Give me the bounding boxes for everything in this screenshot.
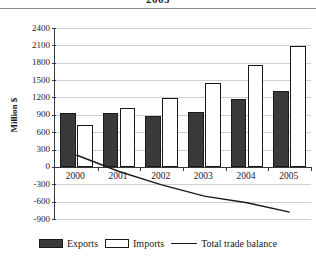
- y-tick-label: 900: [4, 110, 50, 119]
- plot-area: [54, 28, 310, 219]
- y-tick-mark: [52, 219, 56, 220]
- x-tick-label-2002: 2002: [138, 171, 184, 181]
- y-tick-label: 1500: [4, 76, 50, 85]
- y-tick-label: -300: [4, 180, 50, 189]
- y-tick-label: 1800: [4, 58, 50, 67]
- y-tick-label: 0: [4, 162, 50, 171]
- gridline: [55, 219, 311, 220]
- y-tick-label: 2400: [4, 24, 50, 33]
- chart-container: 2005 Million $ 2400210018001500120090060…: [0, 0, 316, 267]
- x-tick-label-2004: 2004: [223, 171, 269, 181]
- x-tick-label-2005: 2005: [266, 171, 312, 181]
- y-tick-label: -900: [4, 215, 50, 224]
- legend-label: Total trade balance: [201, 238, 277, 249]
- legend-label: Exports: [67, 238, 98, 249]
- legend-label: Imports: [133, 238, 164, 249]
- title-divider: [0, 8, 316, 9]
- legend-item-exports[interactable]: Exports: [39, 238, 98, 249]
- legend-swatch-icon: [171, 243, 197, 244]
- legend-item-imports[interactable]: Imports: [105, 238, 164, 249]
- legend-swatch-icon: [39, 239, 63, 248]
- trade-balance-polyline: [76, 155, 289, 212]
- x-tick-label-2000: 2000: [52, 171, 98, 181]
- chart-title: 2005: [0, 0, 316, 5]
- trade-balance-line: [55, 28, 311, 219]
- y-tick-label: 600: [4, 128, 50, 137]
- y-tick-label: -600: [4, 197, 50, 206]
- legend-item-total-trade-balance[interactable]: Total trade balance: [171, 238, 277, 249]
- chart-legend: ExportsImportsTotal trade balance: [0, 238, 316, 249]
- y-tick-label: 2100: [4, 41, 50, 50]
- y-tick-label: 300: [4, 145, 50, 154]
- x-tick-label-2003: 2003: [180, 171, 226, 181]
- legend-swatch-icon: [105, 239, 129, 248]
- y-tick-label: 1200: [4, 93, 50, 102]
- x-tick-label-2001: 2001: [95, 171, 141, 181]
